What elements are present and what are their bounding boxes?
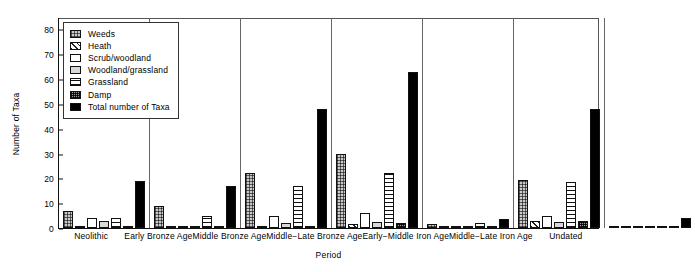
legend-item-label: Weeds xyxy=(88,29,115,39)
bar[interactable] xyxy=(451,226,461,228)
legend-item: Total number of Taxa xyxy=(70,101,170,113)
bar[interactable] xyxy=(463,226,473,228)
bar[interactable] xyxy=(269,216,279,228)
bar[interactable] xyxy=(408,72,418,228)
bar[interactable] xyxy=(281,223,291,228)
y-tick-label: 30 xyxy=(44,150,59,160)
bar[interactable] xyxy=(360,213,370,228)
y-axis-title-wrap: Number of Taxa xyxy=(10,18,24,229)
x-tick-label: Middle Bronze Age xyxy=(192,231,266,247)
bar[interactable] xyxy=(257,226,267,228)
x-tick-label: Middle−Late Bronze Age xyxy=(266,231,362,247)
bar-group xyxy=(422,18,513,228)
bar[interactable] xyxy=(63,211,73,228)
bar[interactable] xyxy=(293,186,303,228)
bar[interactable] xyxy=(578,221,588,228)
legend-item: Heath xyxy=(70,40,170,52)
bar[interactable] xyxy=(135,181,145,228)
y-axis-title: Number of Taxa xyxy=(11,92,21,155)
bar-group-bars xyxy=(332,18,422,228)
bar[interactable] xyxy=(111,218,121,228)
legend-item-label: Woodland/grassland xyxy=(88,65,168,75)
chart-legend: WeedsHeathScrub/woodlandWoodland/grassla… xyxy=(63,22,179,119)
bar[interactable] xyxy=(190,226,200,228)
bar[interactable] xyxy=(202,216,212,228)
y-tick-label: 70 xyxy=(44,50,59,60)
bar[interactable] xyxy=(178,226,188,228)
bar[interactable] xyxy=(475,223,485,228)
legend-item-label: Total number of Taxa xyxy=(88,102,170,112)
x-axis-title: Period xyxy=(58,250,599,260)
x-tick-label: Neolithic xyxy=(58,231,124,247)
bar[interactable] xyxy=(590,109,600,228)
bar[interactable] xyxy=(123,226,133,228)
bar[interactable] xyxy=(609,226,619,228)
legend-item: Grassland xyxy=(70,76,170,88)
bar[interactable] xyxy=(384,173,394,228)
bar-group-bars xyxy=(514,18,604,228)
bar-group-bars xyxy=(605,18,695,228)
bar[interactable] xyxy=(245,173,255,228)
bar-group xyxy=(604,18,695,228)
bar-group xyxy=(331,18,422,228)
bar[interactable] xyxy=(439,226,449,228)
y-tick-mark xyxy=(59,229,63,230)
bar[interactable] xyxy=(681,218,691,228)
bar[interactable] xyxy=(226,186,236,228)
bar[interactable] xyxy=(499,219,509,228)
legend-item: Weeds xyxy=(70,28,170,40)
x-tick-label: Middle−Late Iron Age xyxy=(449,231,533,247)
bar[interactable] xyxy=(75,226,85,228)
bar[interactable] xyxy=(87,218,97,228)
legend-item-label: Heath xyxy=(88,41,111,51)
legend-item: Scrub/woodland xyxy=(70,52,170,64)
y-tick-label: 20 xyxy=(44,174,59,184)
bar-group-bars xyxy=(241,18,331,228)
bar[interactable] xyxy=(348,224,358,228)
bar[interactable] xyxy=(530,221,540,228)
bar[interactable] xyxy=(214,226,224,228)
bar[interactable] xyxy=(518,180,528,228)
x-tick-label: Early Bronze Age xyxy=(124,231,192,247)
y-tick-label: 80 xyxy=(44,25,59,35)
bar[interactable] xyxy=(621,226,631,228)
bar[interactable] xyxy=(566,182,576,228)
bar[interactable] xyxy=(336,154,346,228)
bar[interactable] xyxy=(554,222,564,228)
legend-item: Woodland/grassland xyxy=(70,64,170,76)
y-tick-label: 10 xyxy=(44,199,59,209)
legend-swatch-icon xyxy=(70,54,81,62)
legend-item: Damp xyxy=(70,88,170,100)
bar[interactable] xyxy=(633,226,643,228)
bar[interactable] xyxy=(396,223,406,228)
bar[interactable] xyxy=(99,221,109,228)
legend-item-label: Damp xyxy=(88,90,111,100)
bar[interactable] xyxy=(305,226,315,228)
legend-item-label: Scrub/woodland xyxy=(88,53,151,63)
legend-swatch-icon xyxy=(70,103,81,111)
legend-swatch-icon xyxy=(70,42,81,50)
legend-swatch-icon xyxy=(70,78,81,86)
bar[interactable] xyxy=(372,222,382,228)
y-tick-label: 50 xyxy=(44,100,59,110)
legend-swatch-icon xyxy=(70,30,81,38)
bar[interactable] xyxy=(657,226,667,228)
x-tick-label: Early−Middle Iron Age xyxy=(363,231,450,247)
bar[interactable] xyxy=(154,206,164,228)
bar[interactable] xyxy=(645,226,655,228)
bar[interactable] xyxy=(166,226,176,228)
legend-swatch-icon xyxy=(70,91,81,99)
x-tick-label: Undated xyxy=(533,231,599,247)
bar[interactable] xyxy=(427,224,437,228)
bar-group-bars xyxy=(423,18,513,228)
bar-group xyxy=(513,18,604,228)
x-axis-tick-labels: NeolithicEarly Bronze AgeMiddle Bronze A… xyxy=(58,231,599,247)
y-tick-label: 60 xyxy=(44,75,59,85)
bar-group xyxy=(240,18,331,228)
bar[interactable] xyxy=(317,109,327,228)
legend-item-label: Grassland xyxy=(88,77,128,87)
bar[interactable] xyxy=(669,226,679,228)
bar[interactable] xyxy=(542,216,552,228)
bar[interactable] xyxy=(487,226,497,228)
